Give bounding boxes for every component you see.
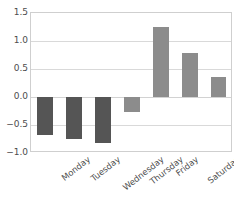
bar-saturday (182, 53, 198, 97)
plot-area (30, 12, 232, 152)
bar-monday (37, 97, 53, 135)
x-tick-label-tuesday: Tuesday (90, 155, 122, 183)
gridline-1 (31, 41, 231, 42)
gridline-0neg5 (31, 69, 231, 70)
y-tick-label: 0.0 (2, 92, 28, 101)
y-tick-label: 1.0 (2, 36, 28, 45)
bar-chart: 1.51.00.50.0−0.5−1.0 MondayTuesdayWednes… (0, 0, 234, 202)
y-tick-label: −0.5 (2, 120, 28, 129)
bar-wednesday (95, 97, 111, 143)
y-tick-label: 1.5 (2, 8, 28, 17)
x-tick-label-monday: Monday (61, 155, 93, 182)
bar-sunday (211, 77, 227, 97)
gridline-neg0-5 (31, 125, 231, 126)
bar-friday (153, 27, 169, 97)
bar-tuesday (66, 97, 82, 139)
y-tick-label: 0.5 (2, 64, 28, 73)
y-tick-label: −1.0 (2, 148, 28, 157)
bar-thursday (124, 97, 140, 112)
x-tick-label-saturday: Saturday (206, 155, 234, 185)
